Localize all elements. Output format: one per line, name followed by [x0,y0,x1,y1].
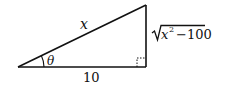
angle-label: θ [47,54,55,68]
angle-arc [41,56,44,67]
hypotenuse-label: x [80,16,88,32]
radicand-exponent: 2 [169,25,174,34]
hypotenuse [18,5,146,67]
radicand-rest: −100 [176,27,212,42]
right-angle-marker [137,58,146,67]
opposite-label: x 2 −100 [152,25,212,42]
triangle-diagram: x θ 10 x 2 −100 [0,0,226,85]
adjacent-label: 10 [83,70,100,85]
radicand-variable: x [161,27,169,42]
